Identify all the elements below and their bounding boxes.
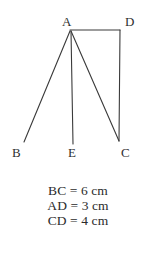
vertex-label-b: B: [12, 146, 21, 159]
geometry-figure: A D B E C BC = 6 cm AD = 3 cm CD = 4 cm: [0, 0, 156, 268]
vertex-label-e: E: [68, 146, 76, 159]
segment-AB: [24, 31, 70, 142]
segment-AE: [71, 31, 73, 144]
measurement-bc: BC = 6 cm: [0, 183, 156, 198]
vertex-label-c: C: [121, 146, 130, 159]
vertex-label-d: D: [125, 15, 134, 28]
measurements-list: BC = 6 cm AD = 3 cm CD = 4 cm: [0, 183, 156, 228]
segment-AC: [71, 31, 119, 141]
measurement-cd: CD = 4 cm: [0, 213, 156, 228]
segment-DC: [119, 30, 120, 141]
measurement-ad: AD = 3 cm: [0, 198, 156, 213]
vertex-label-a: A: [62, 15, 71, 28]
